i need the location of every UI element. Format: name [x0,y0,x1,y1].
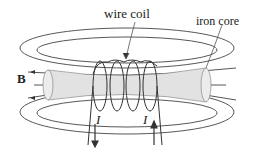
wire-coil-label: wire coil [104,6,150,22]
wire-coil [88,60,162,145]
magnetic-field-label: B [17,71,26,87]
current-label-left: I [96,112,100,128]
iron-core-label: iron core [196,14,239,29]
current-label-right: I [143,112,147,128]
wire-coil-pointer [126,22,135,58]
electromagnet-diagram: wire coil iron core B I I [0,0,254,152]
iron-core-pointer [206,25,222,68]
